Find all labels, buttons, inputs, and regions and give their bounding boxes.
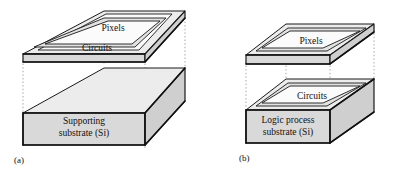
substrate-circuits-label-b: Circuits [297, 91, 327, 101]
plate-front-face-b [246, 55, 330, 64]
plate-circuits-label-a: Circuits [82, 43, 112, 53]
substrate-label-line2-a: substrate (Si) [59, 128, 109, 139]
substrate-block-a: Supporting substrate (Si) [23, 68, 185, 145]
plate-pixels-label-b: Pixels [299, 36, 323, 46]
substrate-label-line1-a: Supporting [63, 116, 105, 126]
top-plate-a: Pixels Circuits [23, 11, 185, 62]
substrate-label-line2-b: substrate (Si) [263, 127, 313, 138]
plate-pixels-label-a: Pixels [101, 23, 125, 33]
top-plate-b: Pixels [246, 24, 374, 64]
sensor-stack-figure: Pixels Circuits Supporting substrate (Si… [0, 0, 409, 169]
panel-a: Pixels Circuits Supporting substrate (Si… [14, 11, 185, 165]
panel-caption-a: (a) [14, 155, 24, 165]
substrate-label-line1-b: Logic process [261, 115, 314, 125]
plate-front-face-a [23, 54, 145, 62]
panel-b: Pixels Circuits Logic process substrate … [239, 24, 374, 163]
panel-caption-b: (b) [239, 153, 250, 163]
substrate-block-b: Circuits Logic process substrate (Si) [246, 79, 374, 143]
